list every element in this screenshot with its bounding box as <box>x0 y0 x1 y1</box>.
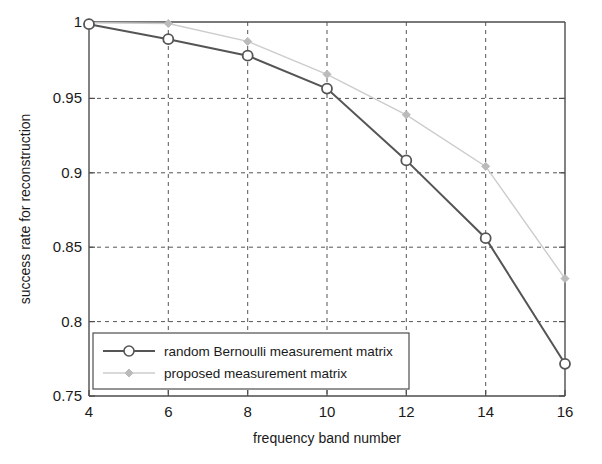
circle-marker-icon <box>560 359 570 369</box>
y-tick-label: 0.75 <box>53 387 82 404</box>
legend-label-bernoulli: random Bernoulli measurement matrix <box>164 344 393 359</box>
y-tick-label: 1 <box>74 13 82 30</box>
y-tick-label: 0.95 <box>53 89 82 106</box>
circle-marker-icon <box>124 346 134 356</box>
x-tick-label: 6 <box>164 403 172 420</box>
y-tick-labels: 0.75 0.8 0.85 0.9 0.95 1 <box>53 13 82 404</box>
circle-marker-icon <box>481 233 491 243</box>
x-axis-title: frequency band number <box>253 430 401 446</box>
x-tick-label: 16 <box>557 403 574 420</box>
y-tick-label: 0.8 <box>61 313 82 330</box>
y-tick-label: 0.85 <box>53 238 82 255</box>
x-tick-label: 10 <box>319 403 336 420</box>
y-tick-label: 0.9 <box>61 164 82 181</box>
x-tick-label: 8 <box>244 403 252 420</box>
x-tick-label: 14 <box>477 403 494 420</box>
circle-marker-icon <box>322 84 332 94</box>
x-tick-labels: 4 6 8 10 12 14 16 <box>85 403 574 420</box>
legend-label-proposed: proposed measurement matrix <box>164 366 347 381</box>
circle-marker-icon <box>163 34 173 44</box>
circle-marker-icon <box>84 19 94 29</box>
legend: random Bernoulli measurement matrix prop… <box>93 333 409 389</box>
y-axis-title: success rate for reconstruction <box>17 114 33 305</box>
line-chart: 0.75 0.8 0.85 0.9 0.95 1 4 6 8 10 12 14 … <box>0 0 602 464</box>
circle-marker-icon <box>243 51 253 61</box>
x-tick-label: 12 <box>398 403 415 420</box>
x-tick-label: 4 <box>85 403 93 420</box>
chart-figure: 0.75 0.8 0.85 0.9 0.95 1 4 6 8 10 12 14 … <box>0 0 602 464</box>
circle-marker-icon <box>401 155 411 165</box>
